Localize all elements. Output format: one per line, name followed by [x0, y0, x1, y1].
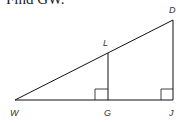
label-w: W — [10, 108, 20, 118]
right-angle-mark-j — [161, 89, 173, 100]
triangle-diagram: D L W G J — [0, 0, 184, 124]
label-d: D — [169, 5, 176, 15]
segment-wd — [15, 20, 173, 100]
label-j: J — [168, 108, 174, 118]
right-angle-mark-g — [95, 89, 108, 100]
label-g: G — [104, 108, 111, 118]
label-l: L — [103, 38, 108, 48]
